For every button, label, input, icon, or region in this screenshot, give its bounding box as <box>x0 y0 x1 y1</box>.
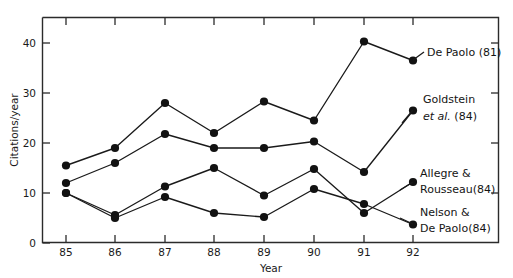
x-axis-ticks <box>66 235 413 243</box>
y-tick-label-20: 20 <box>23 137 36 149</box>
data-point <box>409 220 417 228</box>
data-point <box>62 161 70 169</box>
annotation-goldstein-line2: et al. (84) <box>423 110 477 123</box>
data-point <box>161 99 169 107</box>
data-point <box>161 193 169 201</box>
y-axis-title: Citations/year <box>8 93 20 167</box>
data-point <box>360 37 368 45</box>
annotation-allegre-line2: Rousseau(84) <box>420 183 495 196</box>
data-point <box>111 144 119 152</box>
annotation-goldstein-etal: et al. <box>423 110 451 123</box>
data-point <box>260 97 268 105</box>
x-tick-label-92: 92 <box>406 246 419 258</box>
series-line <box>66 168 413 215</box>
x-tick-label-88: 88 <box>207 246 220 258</box>
x-tick-label-87: 87 <box>158 246 171 258</box>
data-point <box>111 214 119 222</box>
data-point <box>310 137 318 145</box>
data-point <box>161 182 169 190</box>
series-annotations: De Paolo (81) Goldstein et al. (84) Alle… <box>420 46 501 235</box>
x-tick-label-90: 90 <box>307 246 320 258</box>
series-layer <box>62 37 417 228</box>
data-point <box>360 200 368 208</box>
data-point <box>210 209 218 217</box>
y-tick-label-30: 30 <box>23 87 36 99</box>
data-point <box>260 144 268 152</box>
x-axis-title: Year <box>259 262 283 274</box>
annotation-nelson-line1: Nelson & <box>420 206 470 219</box>
citations-per-year-figure: 0 10 20 30 40 85 86 87 88 89 90 91 92 Ye… <box>0 0 513 278</box>
annotation-de-paolo-81: De Paolo (81) <box>427 46 501 59</box>
data-point <box>210 164 218 172</box>
data-point <box>62 179 70 187</box>
series-0 <box>62 37 417 169</box>
x-tick-labels: 85 86 87 88 89 90 91 92 <box>59 246 419 258</box>
annotation-goldstein-line1: Goldstein <box>423 93 475 106</box>
y-axis-ticks-right <box>491 43 499 193</box>
data-point <box>62 189 70 197</box>
y-tick-label-0: 0 <box>29 237 36 249</box>
annotation-nelson-line2: De Paolo(84) <box>420 222 491 235</box>
data-point <box>310 165 318 173</box>
data-point <box>111 159 119 167</box>
series-3 <box>62 185 417 229</box>
y-axis-ticks <box>43 43 51 243</box>
data-point <box>161 130 169 138</box>
x-axis-ticks-top <box>66 18 413 26</box>
x-tick-label-89: 89 <box>257 246 270 258</box>
line-chart: 0 10 20 30 40 85 86 87 88 89 90 91 92 Ye… <box>0 0 513 278</box>
y-tick-label-10: 10 <box>23 187 36 199</box>
leader-lines <box>400 52 424 224</box>
data-point <box>260 213 268 221</box>
annotation-allegre-line1: Allegre & <box>420 167 471 180</box>
data-point <box>210 129 218 137</box>
y-tick-labels: 0 10 20 30 40 <box>23 37 36 249</box>
annotation-goldstein-year: (84) <box>451 110 477 123</box>
data-point <box>210 144 218 152</box>
data-point <box>310 185 318 193</box>
data-point <box>260 191 268 199</box>
x-tick-label-86: 86 <box>108 246 122 258</box>
x-tick-label-85: 85 <box>59 246 72 258</box>
y-tick-label-40: 40 <box>23 37 36 49</box>
data-point <box>360 168 368 176</box>
data-point <box>360 209 368 217</box>
x-tick-label-91: 91 <box>357 246 370 258</box>
data-point <box>310 116 318 124</box>
